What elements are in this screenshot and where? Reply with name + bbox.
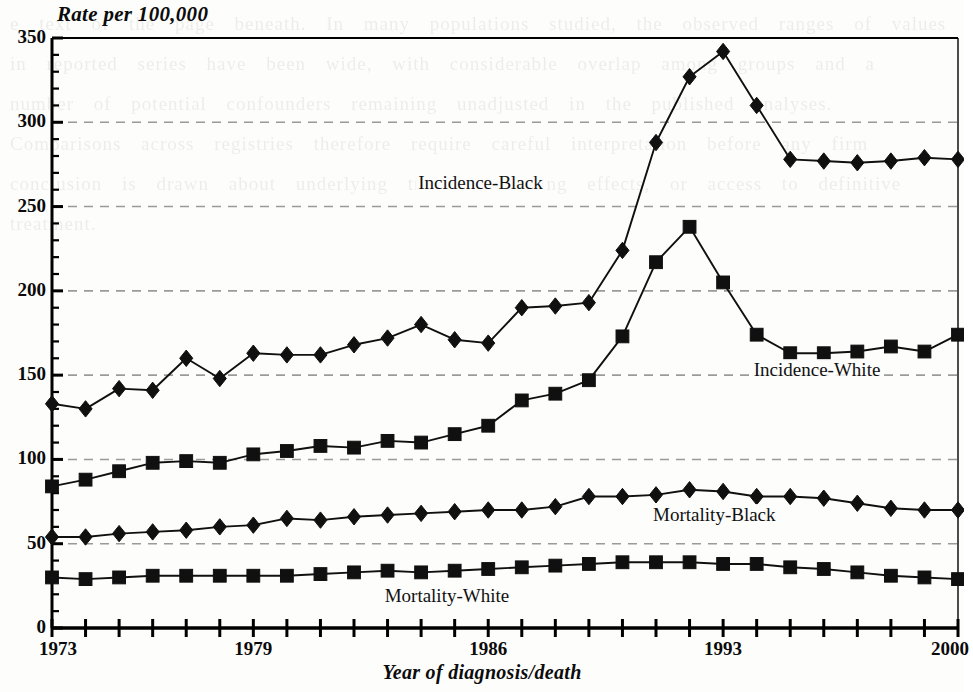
data-point-marker xyxy=(683,220,696,233)
data-point-marker xyxy=(616,488,629,504)
data-point-marker xyxy=(851,495,864,511)
series-annotation-incidence-white: Incidence-White xyxy=(752,359,883,381)
data-point-marker xyxy=(415,505,428,521)
data-point-marker xyxy=(180,455,193,468)
data-point-marker xyxy=(817,347,830,360)
data-point-marker xyxy=(348,566,361,579)
data-point-marker xyxy=(683,556,696,569)
data-point-marker xyxy=(817,490,830,506)
data-point-marker xyxy=(213,456,226,469)
x-axis-tick-label: 2000 xyxy=(905,638,973,660)
data-point-marker xyxy=(79,401,92,417)
data-point-marker xyxy=(884,340,897,353)
y-axis-tick-label: 350 xyxy=(0,26,46,48)
data-point-marker xyxy=(280,569,293,582)
data-point-marker xyxy=(918,149,931,165)
data-point-marker xyxy=(649,134,662,150)
data-point-marker xyxy=(717,558,730,571)
data-point-marker xyxy=(750,488,763,504)
data-point-marker xyxy=(884,569,897,582)
data-point-marker xyxy=(515,561,528,574)
series-annotation-mortality-white: Mortality-White xyxy=(383,585,512,607)
data-point-marker xyxy=(616,330,629,343)
data-point-marker xyxy=(515,394,528,407)
data-point-marker xyxy=(683,69,696,85)
data-point-marker xyxy=(247,345,260,361)
data-point-marker xyxy=(549,298,562,314)
data-point-marker xyxy=(918,345,931,358)
data-point-marker xyxy=(213,569,226,582)
y-axis-tick-label: 100 xyxy=(0,447,46,469)
data-point-marker xyxy=(784,347,797,360)
data-point-marker xyxy=(582,488,595,504)
data-point-marker xyxy=(79,473,92,486)
data-point-marker xyxy=(549,387,562,400)
data-point-marker xyxy=(717,276,730,289)
data-point-marker xyxy=(448,564,461,577)
data-point-marker xyxy=(415,316,428,332)
data-point-marker xyxy=(549,498,562,514)
data-point-marker xyxy=(46,480,59,493)
y-axis-tick-label: 300 xyxy=(0,110,46,132)
data-point-marker xyxy=(750,328,763,341)
data-point-marker xyxy=(79,529,92,545)
data-point-marker xyxy=(113,465,126,478)
data-point-marker xyxy=(448,503,461,519)
data-point-marker xyxy=(146,456,159,469)
data-point-marker xyxy=(549,559,562,572)
data-point-marker xyxy=(280,510,293,526)
data-point-marker xyxy=(146,524,159,540)
data-point-marker xyxy=(784,561,797,574)
data-point-marker xyxy=(851,155,864,171)
data-point-marker xyxy=(817,563,830,576)
data-point-marker xyxy=(213,370,226,386)
data-point-marker xyxy=(683,482,696,498)
data-point-marker xyxy=(515,502,528,518)
data-point-marker xyxy=(79,573,92,586)
data-point-marker xyxy=(918,502,931,518)
data-point-marker xyxy=(717,483,730,499)
data-point-marker xyxy=(314,512,327,528)
data-point-marker xyxy=(314,347,327,363)
data-point-marker xyxy=(884,500,897,516)
data-point-marker xyxy=(347,337,360,353)
y-axis-tick-label: 50 xyxy=(0,532,46,554)
x-axis-tick-label: 1979 xyxy=(208,638,298,660)
data-point-marker xyxy=(448,428,461,441)
data-point-marker xyxy=(415,436,428,449)
data-point-marker xyxy=(784,488,797,504)
data-point-marker xyxy=(113,525,126,541)
data-point-marker xyxy=(280,445,293,458)
axis-lines xyxy=(52,38,958,628)
data-point-marker xyxy=(884,153,897,169)
data-point-marker xyxy=(750,558,763,571)
data-point-marker xyxy=(448,332,461,348)
data-point-marker xyxy=(113,571,126,584)
y-axis-tick-label: 150 xyxy=(0,363,46,385)
data-point-marker xyxy=(649,487,662,503)
y-axis-tick-label: 200 xyxy=(0,279,46,301)
y-axis-tick-label: 0 xyxy=(0,616,46,638)
data-point-marker xyxy=(952,328,964,341)
chart-series xyxy=(45,482,964,546)
series-annotation-mortality-black: Mortality-Black xyxy=(651,504,777,526)
data-point-marker xyxy=(247,517,260,533)
data-point-marker xyxy=(314,568,327,581)
data-point-marker xyxy=(951,502,964,518)
x-axis-tick-label: 1986 xyxy=(443,638,533,660)
data-point-marker xyxy=(650,256,663,269)
data-point-marker xyxy=(482,563,495,576)
data-point-marker xyxy=(381,434,394,447)
data-point-marker xyxy=(918,571,931,584)
x-axis-tick-label: 1973 xyxy=(13,638,103,660)
data-point-marker xyxy=(180,350,193,366)
data-point-marker xyxy=(381,330,394,346)
data-point-marker xyxy=(280,347,293,363)
data-point-marker xyxy=(851,345,864,358)
y-axis-tick-label: 250 xyxy=(0,195,46,217)
data-point-marker xyxy=(482,502,495,518)
data-point-marker xyxy=(146,382,159,398)
data-point-marker xyxy=(113,380,126,396)
data-point-marker xyxy=(46,571,59,584)
